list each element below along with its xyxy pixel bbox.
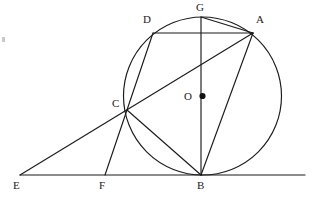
- chord-GA: [201, 17, 253, 33]
- vertex-label-a: A: [256, 14, 264, 25]
- geometry-figure: G A D C O E F B: [0, 0, 314, 198]
- vertex-label-o: O: [184, 91, 192, 102]
- vertex-label-f: F: [99, 180, 105, 191]
- secant-line-EA: [20, 33, 253, 175]
- vertex-label-g: G: [196, 2, 204, 13]
- vertex-label-d: D: [143, 14, 151, 25]
- vertex-label-b: B: [197, 180, 204, 191]
- chord-AB: [201, 33, 253, 175]
- vertex-label-e: E: [13, 180, 20, 191]
- center-point-dot: [199, 93, 205, 99]
- geometry-canvas: [0, 0, 314, 198]
- vertex-label-c: C: [112, 98, 119, 109]
